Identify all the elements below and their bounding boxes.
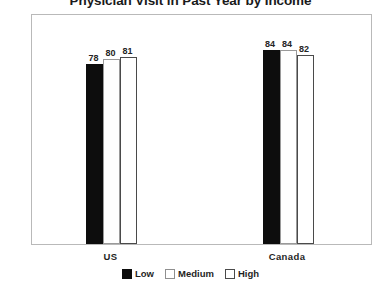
bar-us-high <box>120 57 137 244</box>
bar-canada-low <box>263 50 280 244</box>
legend-label: High <box>238 268 259 279</box>
bar-value-label: 81 <box>108 46 148 56</box>
bar-us-low <box>86 64 103 244</box>
chart-legend: LowMediumHigh <box>0 268 381 279</box>
bar-us-medium <box>103 59 120 244</box>
legend-swatch-icon <box>122 269 132 279</box>
bar-canada-high <box>297 55 314 244</box>
legend-entry-high[interactable]: High <box>225 268 259 279</box>
x-axis-group-label-us: US <box>51 251 171 262</box>
chart-title: Physician Visit in Past Year by Income <box>0 0 381 8</box>
bar-value-label: 82 <box>284 44 324 54</box>
legend-entry-medium[interactable]: Medium <box>165 268 214 279</box>
legend-swatch-icon <box>165 269 175 279</box>
legend-label: Medium <box>178 268 214 279</box>
bar-canada-medium <box>280 50 297 244</box>
bar-chart: Physician Visit in Past Year by Income 0… <box>0 0 381 291</box>
legend-swatch-icon <box>225 269 235 279</box>
legend-label: Low <box>135 268 154 279</box>
x-axis-group-label-canada: Canada <box>227 251 347 262</box>
legend-entry-low[interactable]: Low <box>122 268 154 279</box>
